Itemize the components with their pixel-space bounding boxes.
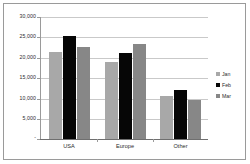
bar-group-europe (97, 17, 153, 139)
y-axis-tick-label: 20,000 (20, 55, 36, 60)
bar-feb-other[interactable] (174, 90, 187, 139)
bar-feb-europe[interactable] (119, 53, 132, 139)
bar-mar-other[interactable] (188, 100, 201, 139)
x-axis-tick-mark (97, 139, 98, 142)
bar-jan-other[interactable] (160, 96, 173, 139)
bars-layer (41, 17, 208, 139)
y-axis-tick-label: 15,000 (20, 75, 36, 80)
y-axis-tick-label: 25,000 (20, 34, 36, 39)
x-axis-category-label: USA (41, 143, 97, 150)
x-axis-category-label: Other (153, 143, 208, 150)
x-axis-line (40, 139, 208, 140)
legend-item-jan[interactable]: Jan (216, 68, 248, 79)
y-axis-tick-label: 5,000 (23, 116, 36, 121)
chart-container: 30,000 25,000 20,000 15,000 10,000 5,000… (3, 3, 246, 160)
bar-jan-usa[interactable] (49, 52, 62, 139)
legend-swatch-icon-mar (216, 94, 220, 98)
legend-swatch-icon-feb (216, 83, 220, 87)
bar-group-other (153, 17, 208, 139)
legend-label-jan: Jan (222, 71, 230, 77)
legend-item-mar[interactable]: Mar (216, 90, 248, 101)
y-axis-tick-label: 10,000 (20, 96, 36, 101)
chart-legend: Jan Feb Mar (216, 68, 248, 101)
bar-jan-europe[interactable] (105, 62, 118, 139)
x-axis-tick-mark (153, 139, 154, 142)
y-axis-labels: 30,000 25,000 20,000 15,000 10,000 5,000… (4, 4, 36, 161)
x-axis-labels: USA Europe Other (41, 143, 208, 155)
legend-swatch-icon-jan (216, 72, 220, 76)
y-axis-tick-label: 30,000 (20, 14, 36, 19)
bar-group-usa (41, 17, 97, 139)
legend-label-mar: Mar (222, 93, 231, 99)
bar-mar-europe[interactable] (133, 44, 146, 139)
legend-label-feb: Feb (222, 82, 231, 88)
legend-item-feb[interactable]: Feb (216, 79, 248, 90)
bar-feb-usa[interactable] (63, 36, 76, 139)
y-axis-tick-label: - (34, 135, 36, 140)
x-axis-category-label: Europe (97, 143, 153, 150)
bar-mar-usa[interactable] (77, 47, 90, 139)
